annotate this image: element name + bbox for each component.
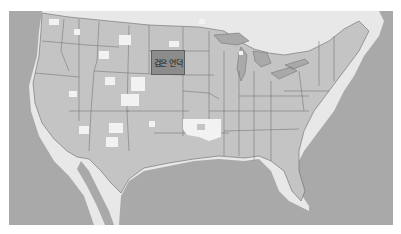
us-map (9, 11, 393, 225)
black-hills-highlight[interactable]: 검은 언덕 (151, 50, 185, 75)
gulf-of-mexico (119, 159, 309, 225)
public-land-inner (197, 124, 205, 130)
map-container: 검은 언덕 (9, 11, 393, 225)
black-hills-label: 검은 언덕 (154, 57, 182, 68)
